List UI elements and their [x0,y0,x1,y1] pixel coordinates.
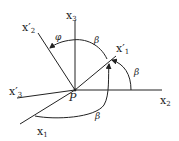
axes-rotation-diagram: P x3 x2 x1 x′2 x′1 x′3 φ β β β [0,0,179,141]
x3-label: x3 [66,9,77,23]
x2-label: x2 [160,94,171,108]
origin-label: P [68,91,77,104]
beta-arc-x2-to-x1prime [112,60,131,90]
x1-prime-axis [75,56,116,90]
beta-top-label: β [93,35,99,45]
x1-label: x1 [37,125,48,139]
x3-prime-label: x′3 [9,85,22,99]
phi-label: φ [55,32,62,42]
x1-axis [20,90,75,124]
x2-prime-label: x′2 [22,21,35,35]
beta-bottom-label: β [94,111,100,121]
x3-prime-axis [17,90,75,98]
beta-right-label: β [133,67,139,77]
x1-prime-label: x′1 [116,42,129,56]
